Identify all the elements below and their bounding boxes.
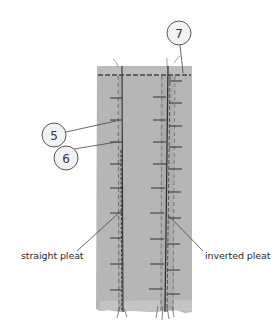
svg-text:7: 7 [175,27,183,41]
callout-5: 5 [42,123,66,147]
callout-6: 6 [54,146,78,170]
straight-pleat-label: straight pleat [21,250,84,261]
svg-text:5: 5 [50,129,58,143]
inverted-pleat-label: inverted pleat [205,250,270,261]
loose-threads-top [113,56,180,67]
callout-7: 7 [167,21,191,45]
pleat-diagram: 7 5 6 [0,0,278,331]
svg-text:6: 6 [62,152,70,166]
